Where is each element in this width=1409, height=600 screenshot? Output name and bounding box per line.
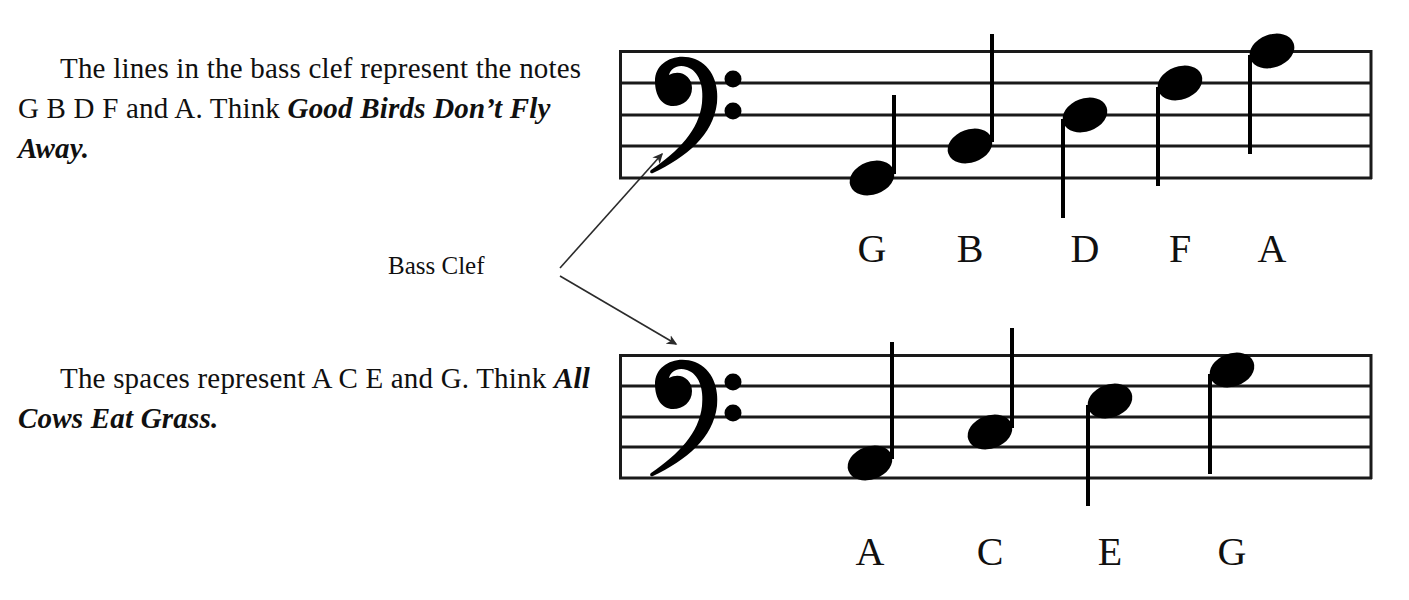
note-G-space [1205, 347, 1260, 474]
spaces-paragraph-text: The spaces represent A C E and G. Think [60, 362, 554, 394]
note-letter-bot-0: A [856, 528, 885, 575]
top-staff-svg [619, 50, 1373, 180]
note-letter-top-3: F [1169, 225, 1191, 272]
note-letter-top-0: G [858, 225, 887, 272]
illustration-page: The lines in the bass clef represent the… [0, 0, 1409, 600]
bass-clef-callout-label: Bass Clef [388, 252, 485, 280]
note-A-space [843, 342, 898, 486]
bottom-staff [619, 354, 1373, 482]
note-letter-bot-3: G [1218, 528, 1247, 575]
note-E-space [1083, 378, 1138, 506]
note-D [1058, 92, 1113, 218]
top-staff [619, 50, 1373, 178]
note-C-space [963, 328, 1018, 455]
note-B [943, 34, 998, 169]
bottom-staff-svg [619, 354, 1373, 484]
note-G [845, 95, 900, 201]
note-letter-top-2: D [1071, 225, 1100, 272]
note-letter-bot-1: C [977, 528, 1004, 575]
lines-paragraph: The lines in the bass clef represent the… [18, 48, 598, 168]
note-letter-bot-2: E [1098, 528, 1122, 575]
note-letter-top-1: B [957, 225, 984, 272]
arrow-to-bottom-clef [560, 276, 676, 344]
spaces-paragraph: The spaces represent A C E and G. Think … [18, 358, 598, 438]
note-F [1153, 60, 1208, 186]
note-letter-top-4: A [1258, 225, 1287, 272]
note-A [1245, 28, 1300, 154]
